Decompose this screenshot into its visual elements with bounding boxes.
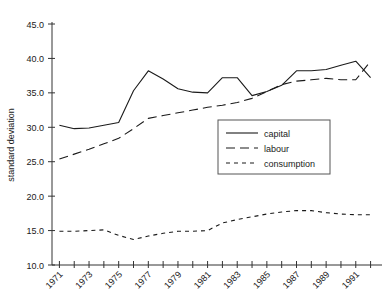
y-tick-label: 40.0 (26, 54, 44, 64)
y-tick-label: 10.0 (26, 261, 44, 271)
y-axis-title: standard deviation (6, 108, 16, 182)
y-tick-label: 15.0 (26, 226, 44, 236)
chart-legend: capitallabourconsumption (218, 120, 330, 174)
legend-label-capital: capital (264, 129, 290, 139)
y-tick-label: 30.0 (26, 123, 44, 133)
y-tick-label: 45.0 (26, 20, 44, 30)
line-chart: 10.015.020.025.030.035.040.045.0 1971197… (0, 0, 387, 295)
y-tick-label: 20.0 (26, 192, 44, 202)
legend-label-consumption: consumption (264, 159, 315, 169)
y-tick-label: 35.0 (26, 88, 44, 98)
chart-canvas: 10.015.020.025.030.035.040.045.0 1971197… (0, 0, 387, 295)
legend-label-labour: labour (264, 144, 289, 154)
y-tick-label: 25.0 (26, 157, 44, 167)
